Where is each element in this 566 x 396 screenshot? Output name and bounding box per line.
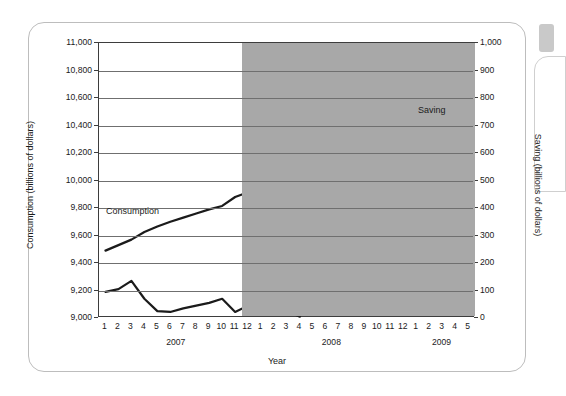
x-axis-tick-label: 11 bbox=[230, 322, 239, 331]
gridline bbox=[99, 71, 473, 72]
y-axis-right-tick-label: 300 bbox=[480, 231, 526, 240]
y-axis-left-tick-label: 9,000 bbox=[34, 313, 92, 322]
x-axis-tick-label: 9 bbox=[361, 322, 366, 331]
gridline bbox=[99, 98, 473, 99]
y-axis-left-tick-label: 10,000 bbox=[34, 176, 92, 185]
gridline bbox=[99, 263, 473, 264]
x-axis-tick-label: 5 bbox=[465, 322, 470, 331]
x-axis-tick-label: 4 bbox=[297, 322, 302, 331]
y-axis-left-tick-label: 10,600 bbox=[34, 93, 92, 102]
x-axis-tick-label: 9 bbox=[206, 322, 211, 331]
x-axis-tick-label: 8 bbox=[193, 322, 198, 331]
x-axis-tick-label: 3 bbox=[439, 322, 444, 331]
x-axis-tick-label: 8 bbox=[348, 322, 353, 331]
x-axis-tick-label: 6 bbox=[167, 322, 172, 331]
y-axis-right-tick-label: 400 bbox=[480, 203, 526, 212]
x-axis-tick-label: 10 bbox=[216, 322, 226, 331]
gridline bbox=[99, 291, 473, 292]
x-axis-year-label: 2009 bbox=[432, 338, 451, 347]
recession-shaded-region bbox=[242, 43, 475, 316]
x-axis-tick-label: 4 bbox=[452, 322, 457, 331]
x-axis-tick-label: 1 bbox=[413, 322, 418, 331]
x-axis-tick-label: 10 bbox=[372, 322, 382, 331]
series-label-consumption: Consumption bbox=[106, 207, 159, 216]
y-axis-left-tick-label: 10,800 bbox=[34, 66, 92, 75]
x-axis-tick-label: 5 bbox=[310, 322, 315, 331]
plot-area bbox=[98, 42, 474, 317]
y-axis-left-tick-label: 9,600 bbox=[34, 231, 92, 240]
y-axis-left-tick-label: 9,800 bbox=[34, 203, 92, 212]
x-axis-tick-label: 11 bbox=[385, 322, 394, 331]
x-axis-tick-label: 3 bbox=[128, 322, 133, 331]
x-axis-tick-label: 3 bbox=[284, 322, 289, 331]
x-axis-year-label: 2008 bbox=[322, 338, 341, 347]
series-label-saving: Saving bbox=[418, 106, 446, 115]
y-axis-left-tick-label: 9,400 bbox=[34, 258, 92, 267]
x-axis-tick-label: 5 bbox=[154, 322, 159, 331]
x-axis-title: Year bbox=[0, 356, 554, 366]
x-axis-tick-label: 7 bbox=[335, 322, 340, 331]
y-axis-right-tick-label: 800 bbox=[480, 93, 526, 102]
x-axis-tick-label: 2 bbox=[115, 322, 120, 331]
x-axis-tick-label: 12 bbox=[398, 322, 408, 331]
x-axis-tick-label: 4 bbox=[141, 322, 146, 331]
x-axis-year-label: 2007 bbox=[166, 338, 185, 347]
gridline bbox=[99, 236, 473, 237]
y-axis-left-tick-mark bbox=[94, 317, 98, 318]
gridline bbox=[99, 126, 473, 127]
y-axis-right-tick-label: 900 bbox=[480, 66, 526, 75]
x-axis-tick-label: 1 bbox=[102, 322, 107, 331]
y-axis-right-tick-label: 700 bbox=[480, 121, 526, 130]
y-axis-right-title: Saving (billions of dollars) bbox=[533, 85, 543, 285]
y-axis-right-tick-label: 1,000 bbox=[480, 38, 526, 47]
x-axis-tick-label: 2 bbox=[426, 322, 431, 331]
y-axis-left-tick-label: 10,200 bbox=[34, 148, 92, 157]
y-axis-right-tick-label: 200 bbox=[480, 258, 526, 267]
x-axis-tick-label: 1 bbox=[258, 322, 263, 331]
gridline bbox=[99, 153, 473, 154]
x-axis-tick-label: 2 bbox=[271, 322, 276, 331]
y-axis-right-tick-label: 600 bbox=[480, 148, 526, 157]
x-axis-tick-label: 7 bbox=[180, 322, 185, 331]
y-axis-right-tick-label: 500 bbox=[480, 176, 526, 185]
x-axis-tick-label: 6 bbox=[323, 322, 328, 331]
y-axis-left-tick-label: 11,000 bbox=[34, 38, 92, 47]
y-axis-left-tick-label: 9,200 bbox=[34, 286, 92, 295]
y-axis-left-tick-label: 10,400 bbox=[34, 121, 92, 130]
gridline bbox=[99, 181, 473, 182]
y-axis-right-tick-label: 0 bbox=[480, 313, 526, 322]
y-axis-left-title: Consumption (billions of dollars) bbox=[25, 85, 35, 285]
x-axis-tick-label: 12 bbox=[242, 322, 252, 331]
y-axis-right-tick-label: 100 bbox=[480, 286, 526, 295]
